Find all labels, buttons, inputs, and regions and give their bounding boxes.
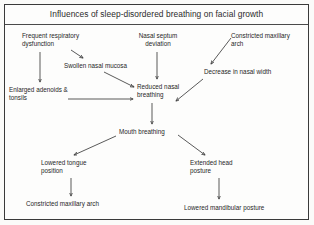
title-divider [5,24,308,25]
node-lowered-mandibular-posture: Lowered mandibular posture [184,204,264,212]
node-frequent-respiratory-dysfunction: Frequent respiratory dysfunction [22,32,79,47]
node-swollen-nasal-mucosa: Swollen nasal mucosa [64,62,127,70]
figure-title: Influences of sleep-disordered breathing… [8,9,305,20]
node-nasal-septum-deviation: Nasal septum deviation [130,32,186,47]
node-lowered-tongue-position: Lowered tongue position [41,159,86,174]
node-enlarged-adenoids-tonsils: Enlarged adenoids & tonsils [9,86,68,101]
node-constricted-maxillary-arch-top: Constricted maxillary arch [231,32,290,47]
node-constricted-maxillary-arch-bottom: Constricted maxillary arch [26,200,99,208]
node-mouth-breathing: Mouth breathing [119,128,165,136]
flowchart-figure: Influences of sleep-disordered breathing… [0,0,314,225]
node-decrease-in-nasal-width: Decrease in nasal width [204,68,271,76]
node-reduced-nasal-breathing: Reduced nasal breathing [137,83,179,98]
node-extended-head-posture: Extended head posture [190,159,233,174]
